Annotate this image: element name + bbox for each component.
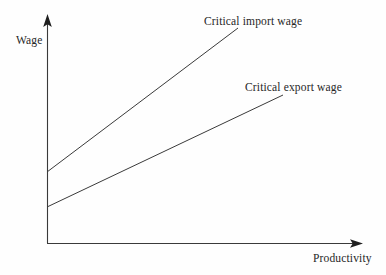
critical-import-wage-line: [47, 28, 238, 172]
critical-export-wage-line: [47, 95, 283, 207]
critical-import-wage-label: Critical import wage: [204, 15, 302, 27]
y-axis-label: Wage: [16, 34, 43, 46]
x-axis: [47, 239, 363, 248]
wage-productivity-figure: Wage Productivity Critical import wage C…: [0, 0, 386, 275]
x-axis-label: Productivity: [313, 252, 372, 264]
plot-canvas: [0, 0, 386, 275]
y-axis: [43, 14, 52, 243]
critical-export-wage-label: Critical export wage: [245, 81, 342, 93]
